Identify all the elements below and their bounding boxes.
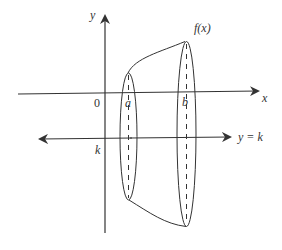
x-axis [18, 91, 258, 94]
k-label: k [95, 143, 101, 157]
line-y-equals-k [40, 138, 132, 139]
curve-reflected [129, 200, 186, 227]
y-axis-label: y [89, 8, 96, 22]
line-label: y = k [237, 130, 263, 144]
curve-f [128, 42, 185, 74]
b-label: b [182, 95, 188, 109]
x-axis-label: x [261, 91, 268, 105]
curve-label: f(x) [194, 21, 211, 35]
line-y-equals-k-right [130, 137, 230, 138]
origin-label: 0 [94, 96, 100, 110]
a-label: a [125, 96, 131, 110]
revolution-diagram: y x 0 f(x) a b k y = k [0, 0, 282, 250]
